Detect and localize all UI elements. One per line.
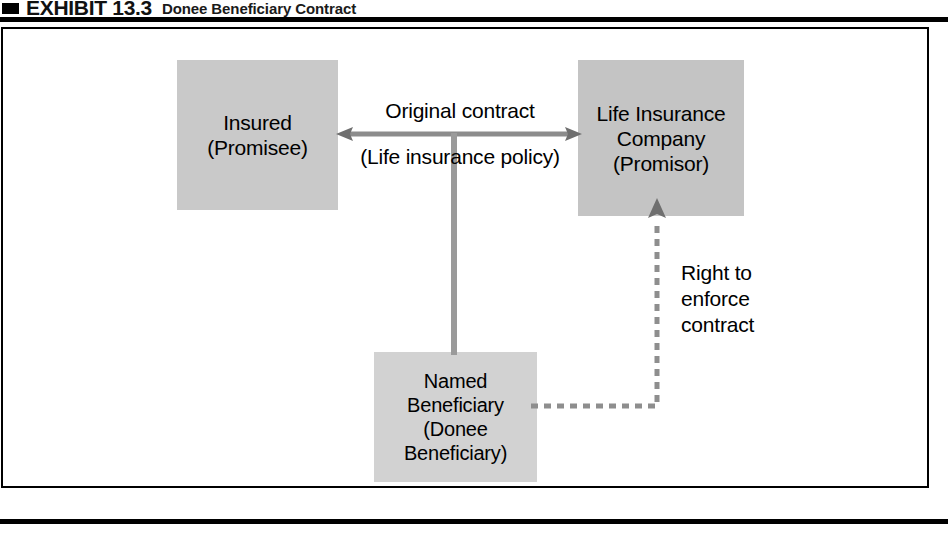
footer-rule-bottom	[0, 519, 948, 524]
exhibit-page: EXHIBIT 13.3Donee Beneficiary Contract I…	[0, 0, 952, 548]
node-insured: Insured (Promisee)	[177, 60, 338, 210]
node-insurer: Life Insurance Company (Promisor)	[578, 60, 744, 216]
edge-label-right-to-enforce: Right to enforce contract	[681, 260, 831, 338]
header-rule-top	[0, 17, 948, 22]
node-beneficiary-label: Named Beneficiary (Donee Beneficiary)	[404, 369, 507, 465]
diagram-frame: Insured (Promisee) Life Insurance Compan…	[1, 27, 929, 488]
node-insurer-label: Life Insurance Company (Promisor)	[596, 101, 725, 176]
node-beneficiary: Named Beneficiary (Donee Beneficiary)	[374, 352, 537, 482]
exhibit-subtitle: Donee Beneficiary Contract	[162, 0, 356, 17]
edge-original-contract-arrow	[336, 126, 582, 142]
square-bullet-icon	[2, 3, 19, 14]
edge-label-life-insurance-policy: (Life insurance policy)	[338, 144, 582, 169]
node-insured-label: Insured (Promisee)	[207, 110, 308, 160]
edge-right-to-enforce-dashed-arrow	[530, 198, 666, 414]
edge-label-original-contract: Original contract	[352, 98, 568, 123]
exhibit-header: EXHIBIT 13.3Donee Beneficiary Contract	[0, 0, 952, 18]
